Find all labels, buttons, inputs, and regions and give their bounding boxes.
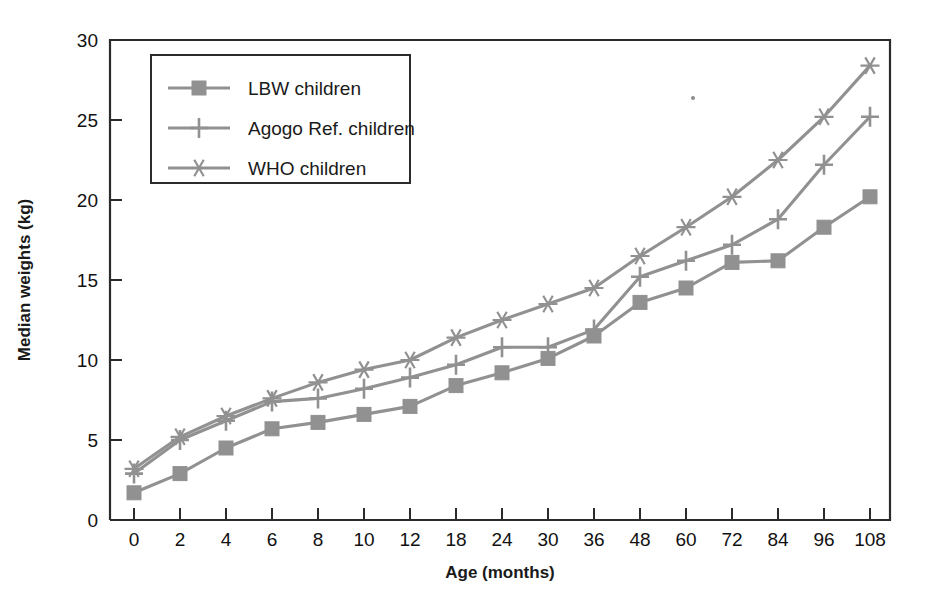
data-point-marker	[403, 399, 417, 413]
data-point-marker	[633, 295, 647, 309]
data-point-marker	[173, 467, 187, 481]
data-point-marker	[863, 190, 877, 204]
y-tick-label: 5	[87, 430, 98, 451]
x-tick-label: 36	[583, 529, 604, 550]
data-point-marker	[357, 407, 371, 421]
x-tick-label: 12	[399, 529, 420, 550]
x-tick-label: 96	[813, 529, 834, 550]
legend-marker-square	[192, 81, 206, 95]
y-tick-label: 30	[77, 30, 98, 51]
x-tick-label: 30	[537, 529, 558, 550]
print-speck	[691, 96, 695, 100]
x-tick-label: 108	[854, 529, 886, 550]
y-tick-label: 25	[77, 110, 98, 131]
x-tick-label: 6	[267, 529, 278, 550]
y-tick-label: 10	[77, 350, 98, 371]
x-axis-title: Age (months)	[445, 563, 555, 582]
legend-item-label: Agogo Ref. children	[248, 118, 415, 139]
x-tick-label: 4	[221, 529, 232, 550]
x-tick-label: 18	[445, 529, 466, 550]
x-tick-label: 60	[675, 529, 696, 550]
y-axis-title: Median weights (kg)	[15, 199, 34, 361]
x-tick-label: 24	[491, 529, 513, 550]
chart-background	[0, 0, 933, 599]
data-point-marker	[449, 379, 463, 393]
data-point-marker	[265, 422, 279, 436]
legend-item-label: LBW children	[248, 78, 361, 99]
x-tick-label: 2	[175, 529, 186, 550]
data-point-marker	[495, 366, 509, 380]
data-point-marker	[679, 281, 693, 295]
x-tick-label: 10	[353, 529, 374, 550]
median-weights-line-chart: 051015202530 024681012182430364860728496…	[0, 0, 933, 599]
data-point-marker	[725, 255, 739, 269]
x-tick-label: 72	[721, 529, 742, 550]
data-point-marker	[219, 441, 233, 455]
x-tick-label: 8	[313, 529, 324, 550]
x-tick-label: 0	[129, 529, 140, 550]
data-point-marker	[311, 415, 325, 429]
y-tick-label: 20	[77, 190, 98, 211]
chart-legend: LBW childrenAgogo Ref. childrenWHO child…	[151, 55, 415, 183]
data-point-marker	[127, 486, 141, 500]
chart-figure: 051015202530 024681012182430364860728496…	[0, 0, 933, 599]
legend-item-label: WHO children	[248, 158, 366, 179]
x-tick-label: 48	[629, 529, 650, 550]
y-tick-label: 15	[77, 270, 98, 291]
data-point-marker	[817, 220, 831, 234]
y-tick-label: 0	[87, 510, 98, 531]
data-point-marker	[771, 254, 785, 268]
x-tick-label: 84	[767, 529, 789, 550]
